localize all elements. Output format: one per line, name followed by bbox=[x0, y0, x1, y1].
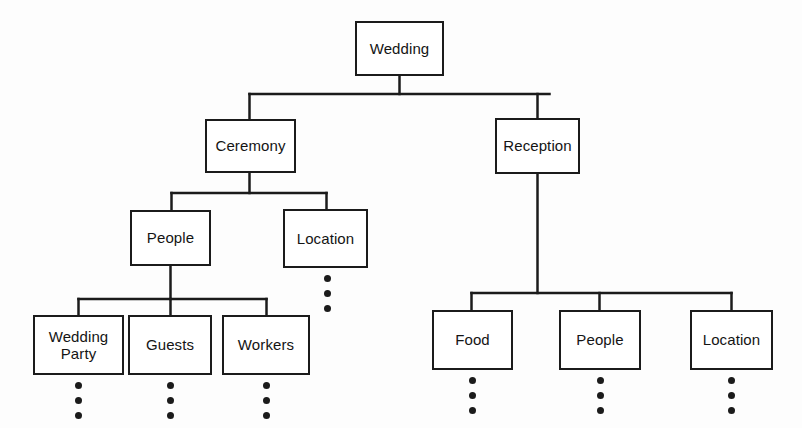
ellipsis-icon-wedding-party bbox=[74, 382, 82, 419]
node-ceremony-people-label: People bbox=[147, 229, 194, 246]
dot-icon bbox=[263, 412, 270, 419]
dot-icon bbox=[75, 397, 82, 404]
node-ceremony-label: Ceremony bbox=[216, 137, 286, 154]
dot-icon bbox=[597, 407, 604, 414]
dot-icon bbox=[728, 407, 735, 414]
ellipsis-icon-guests bbox=[166, 382, 174, 419]
node-ceremony-location-label: Location bbox=[297, 230, 355, 247]
dot-icon bbox=[469, 392, 476, 399]
dot-icon bbox=[728, 377, 735, 384]
node-wedding-party[interactable]: Wedding Party bbox=[33, 315, 124, 375]
ellipsis-icon-ceremony-location bbox=[323, 275, 331, 312]
node-workers[interactable]: Workers bbox=[222, 315, 310, 375]
dot-icon bbox=[75, 412, 82, 419]
dot-icon bbox=[324, 305, 331, 312]
node-guests[interactable]: Guests bbox=[128, 315, 212, 375]
dot-icon bbox=[167, 382, 174, 389]
node-reception-food-label: Food bbox=[455, 331, 490, 348]
dot-icon bbox=[167, 412, 174, 419]
dot-icon bbox=[75, 382, 82, 389]
dot-icon bbox=[263, 397, 270, 404]
node-wedding-party-label: Wedding Party bbox=[49, 328, 109, 363]
node-reception-location-label: Location bbox=[703, 331, 761, 348]
node-wedding[interactable]: Wedding bbox=[355, 21, 444, 76]
dot-icon bbox=[469, 377, 476, 384]
node-workers-label: Workers bbox=[238, 336, 294, 353]
ellipsis-icon-reception-people bbox=[596, 377, 604, 414]
ellipsis-icon-reception-food bbox=[468, 377, 476, 414]
dot-icon bbox=[469, 407, 476, 414]
dot-icon bbox=[728, 392, 735, 399]
node-ceremony-location[interactable]: Location bbox=[283, 209, 368, 268]
node-guests-label: Guests bbox=[146, 336, 194, 353]
node-reception-people[interactable]: People bbox=[559, 310, 641, 370]
dot-icon bbox=[597, 377, 604, 384]
node-reception-label: Reception bbox=[503, 137, 571, 154]
node-reception[interactable]: Reception bbox=[495, 118, 580, 174]
wedding-hierarchy-diagram: Wedding Ceremony Reception People Locati… bbox=[0, 0, 802, 428]
dot-icon bbox=[263, 382, 270, 389]
node-reception-food[interactable]: Food bbox=[432, 310, 513, 370]
dot-icon bbox=[597, 392, 604, 399]
node-reception-location[interactable]: Location bbox=[690, 310, 773, 370]
dot-icon bbox=[324, 275, 331, 282]
ellipsis-icon-reception-location bbox=[727, 377, 735, 414]
dot-icon bbox=[324, 290, 331, 297]
node-reception-people-label: People bbox=[576, 331, 623, 348]
dot-icon bbox=[167, 397, 174, 404]
node-ceremony-people[interactable]: People bbox=[130, 210, 211, 266]
ellipsis-icon-workers bbox=[262, 382, 270, 419]
node-wedding-label: Wedding bbox=[370, 40, 430, 57]
node-ceremony[interactable]: Ceremony bbox=[205, 119, 296, 173]
